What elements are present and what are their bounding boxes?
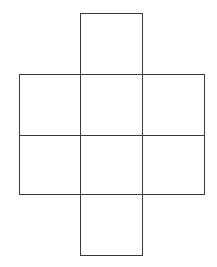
net-square-lower-center (80, 135, 143, 195)
net-square-middle-right (142, 74, 205, 136)
net-square-lower-left (19, 135, 81, 195)
net-square-middle-center (80, 74, 143, 136)
net-square-top (80, 13, 143, 75)
net-square-middle-left (19, 74, 81, 136)
cube-net-diagram (0, 0, 217, 267)
net-square-lower-right (142, 135, 205, 195)
net-square-bottom (80, 194, 143, 256)
